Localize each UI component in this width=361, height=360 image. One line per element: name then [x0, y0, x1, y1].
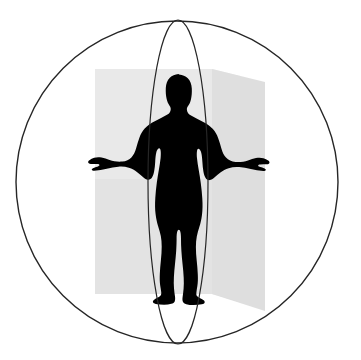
sagittal-plane-shade	[212, 69, 240, 302]
anatomical-planes-illustration	[0, 0, 361, 360]
illustration-canvas: Human body in anatomical reference plane…	[0, 0, 361, 360]
